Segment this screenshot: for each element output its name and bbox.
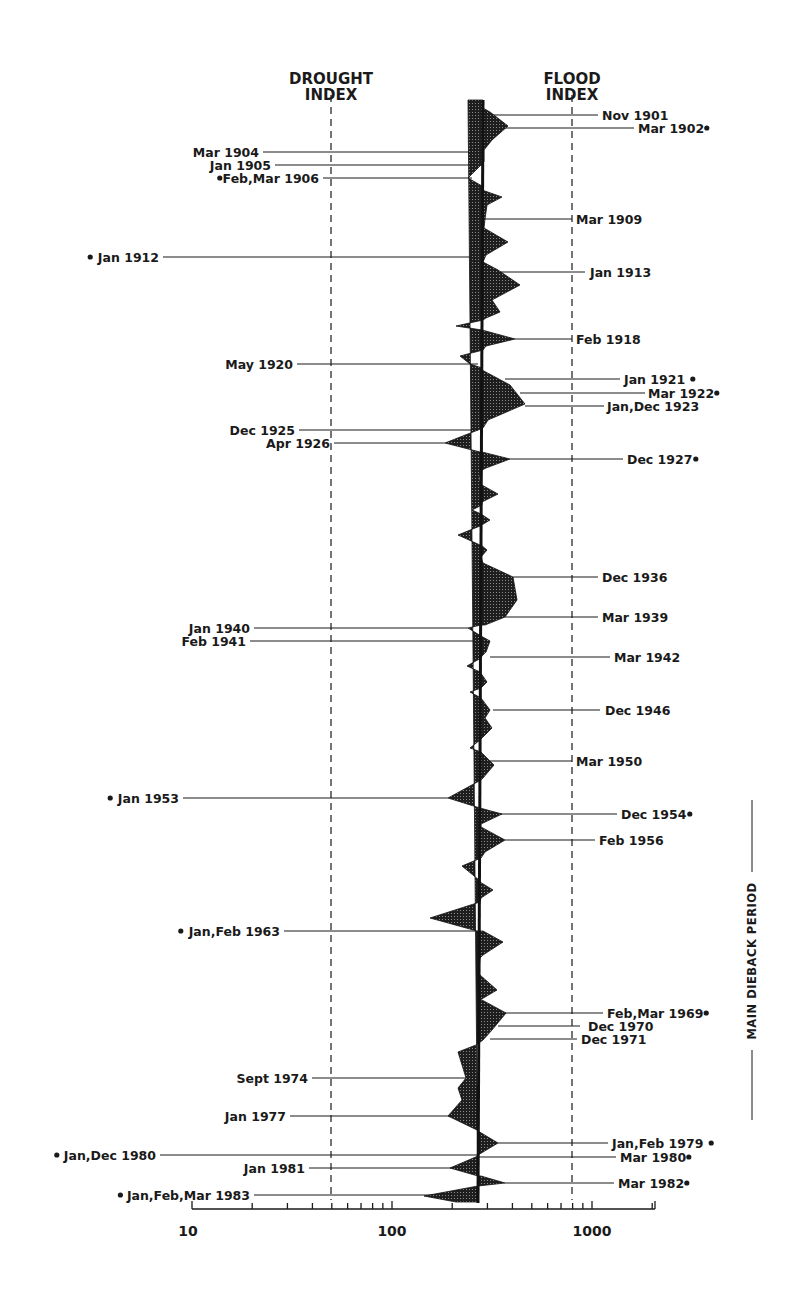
drought-event-annotation: May 1920 [225, 357, 478, 372]
event-label: Mar 1942 [614, 650, 680, 665]
event-label: Jan,Dec 1923 [606, 399, 699, 414]
flood-event-annotation: Mar 1942 [490, 650, 680, 665]
flood-event-annotation: Dec 1936 [513, 570, 668, 585]
event-annotations: Nov 1901Mar 1902Mar 1909Jan 1913Feb 1918… [54, 108, 719, 1203]
flood-event-annotation: Feb 1956 [505, 833, 664, 848]
significant-event-dot-icon [709, 1140, 714, 1145]
event-label: Jan 1912 [97, 250, 159, 265]
x-tick-label-1000: 1000 [573, 1223, 612, 1239]
event-label: Apr 1926 [266, 436, 330, 451]
event-label: Jan,Feb,Mar 1983 [126, 1188, 250, 1203]
significant-event-dot-icon [704, 125, 709, 130]
significant-event-dot-icon [54, 1152, 59, 1157]
flood-event-annotation: Jan,Dec 1923 [525, 399, 699, 414]
drought-event-annotation: Jan 1981 [243, 1161, 455, 1176]
x-axis [192, 1201, 655, 1209]
event-label: May 1920 [225, 357, 293, 372]
flood-event-annotation: Dec 1954 [500, 807, 692, 822]
drought-event-annotation: Apr 1926 [266, 436, 445, 451]
significant-event-dot-icon [684, 1180, 689, 1185]
drought-event-annotation: Jan 1977 [224, 1109, 453, 1124]
drought-event-annotation: Sept 1974 [236, 1071, 466, 1086]
drought-event-annotation: Jan 1953 [108, 791, 448, 806]
significant-event-dot-icon [108, 795, 113, 800]
event-label: Jan,Feb 1963 [188, 924, 280, 939]
event-label: Mar 1939 [602, 610, 668, 625]
flood-event-annotation: Mar 1950 [490, 754, 642, 769]
event-label: Mar 1980 [620, 1150, 686, 1165]
flood-event-annotation: Jan,Feb 1979 [498, 1136, 714, 1151]
event-label: Dec 1954 [621, 807, 687, 822]
flood-event-annotation: Dec 1971 [490, 1032, 646, 1047]
event-label: Feb 1918 [576, 332, 641, 347]
drought-event-annotation: Jan,Feb,Mar 1983 [118, 1188, 440, 1203]
event-label: Jan,Feb 1979 [611, 1136, 703, 1151]
event-label: Sept 1974 [236, 1071, 308, 1086]
flood-event-annotation: Mar 1909 [485, 212, 642, 227]
significant-event-dot-icon [704, 1010, 709, 1015]
event-label: Feb 1941 [181, 634, 246, 649]
event-label: Dec 1936 [602, 570, 668, 585]
significant-event-dot-icon [217, 175, 222, 180]
significant-event-dot-icon [714, 390, 719, 395]
significant-event-dot-icon [690, 376, 695, 381]
flood-event-annotation: Mar 1902 [505, 121, 709, 136]
drought-event-annotation: Feb,Mar 1906 [217, 171, 472, 186]
event-label: Dec 1927 [627, 452, 692, 467]
event-label: Jan,Dec 1980 [63, 1148, 156, 1163]
drought-event-annotation: Feb 1941 [181, 634, 482, 649]
significant-event-dot-icon [118, 1192, 123, 1197]
index-waveform [424, 100, 525, 1202]
event-label: Jan 1913 [589, 265, 651, 280]
main-dieback-period-annotation: MAIN DIEBACK PERIOD [745, 800, 759, 1120]
event-label: Feb,Mar 1906 [223, 171, 320, 186]
event-label: Jan 1981 [243, 1161, 305, 1176]
significant-event-dot-icon [687, 811, 692, 816]
event-label: Jan 1953 [117, 791, 179, 806]
x-tick-label-100: 100 [377, 1223, 406, 1239]
flood-event-annotation: Jan 1921 [505, 372, 695, 387]
flood-event-annotation: Feb 1918 [515, 332, 641, 347]
flood-event-annotation: Dec 1927 [510, 452, 698, 467]
main-dieback-period-label: MAIN DIEBACK PERIOD [745, 882, 759, 1039]
event-label: Jan 1977 [224, 1109, 286, 1124]
event-label: Dec 1971 [581, 1032, 646, 1047]
event-label: Jan 1921 [623, 372, 685, 387]
drought-event-annotation: Jan,Feb 1963 [178, 924, 476, 939]
significant-event-dot-icon [693, 456, 698, 461]
significant-event-dot-icon [178, 928, 183, 933]
significant-event-dot-icon [88, 254, 93, 259]
flood-event-annotation: Dec 1946 [493, 703, 671, 718]
event-label: Mar 1909 [576, 212, 642, 227]
flood-event-annotation: Mar 1980 [478, 1150, 691, 1165]
event-label: Mar 1982 [618, 1176, 684, 1191]
event-label: Mar 1950 [576, 754, 642, 769]
event-label: Feb 1956 [599, 833, 664, 848]
significant-event-dot-icon [686, 1154, 691, 1159]
flood-event-annotation: Mar 1982 [505, 1176, 689, 1191]
event-label: Mar 1902 [638, 121, 704, 136]
drought-event-annotation: Jan 1912 [88, 250, 482, 265]
chart-figure: DROUGHTINDEX FLOODINDEX Nov 1901Mar 1902… [0, 0, 800, 1310]
x-tick-label-10: 10 [178, 1223, 198, 1239]
flood-event-annotation: Mar 1939 [505, 610, 668, 625]
event-label: Dec 1946 [605, 703, 671, 718]
flood-event-annotation: Jan 1913 [495, 265, 651, 280]
